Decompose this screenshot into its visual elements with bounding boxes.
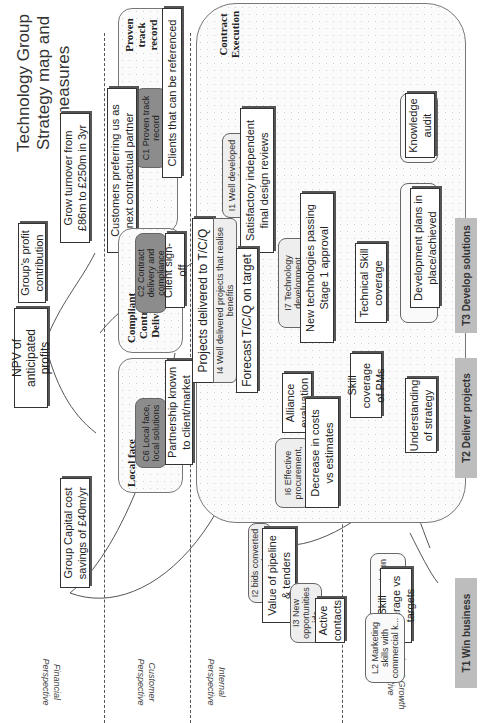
group-label-proven: Proven track record <box>123 13 159 57</box>
measure-development-plans: Development plans in place/achieved <box>410 188 440 308</box>
measure-new-technologies: New technologies passing Stage 1 approva… <box>300 193 334 343</box>
theme-t2: T2 Deliver projects <box>455 358 477 478</box>
measure-knowledge-audit: Knowledge audit <box>405 93 435 158</box>
measure-skill-coverage-pms: Skill coverage of PMs <box>350 353 382 418</box>
measure-forecast-tcq: Forecast T/C/Q on target <box>236 248 258 393</box>
theme-t3: T3 Develop solutions <box>455 218 477 333</box>
measure-npv: NPV of anticipated profits <box>14 308 48 408</box>
objective-l2[interactable]: L2 Marketing skills with commercial k... <box>365 613 405 683</box>
objective-c6[interactable]: C6 Local face, local solutions <box>135 398 167 468</box>
group-label-contract-execution: Contract Execution <box>217 7 241 62</box>
measure-grow-turnover: Grow turnover from £86m to £250m in 3yr <box>60 113 90 243</box>
objective-i4[interactable]: I4 Well delivered projects that realise … <box>213 218 237 383</box>
measure-active-contacts: Active contacts <box>315 598 345 643</box>
measure-projects-delivered: Projects delivered to T/C/Q <box>192 218 214 383</box>
measure-capital-cost-savings: Group Capital cost savings of £40m/yr <box>60 478 90 588</box>
measure-decrease-costs: Decrease in costs vs estimates <box>305 398 339 508</box>
measure-technical-skill: Technical Skill coverage <box>355 243 387 323</box>
measure-client-signoff: Client sign-off <box>165 233 185 308</box>
theme-t1: T1 Win business <box>455 578 477 688</box>
measure-design-reviews: Satisfactory independent final design re… <box>240 108 274 253</box>
measure-clients-referenced: Clients that can be referenced <box>162 8 182 178</box>
measure-understanding-strategy: Understanding of strategy <box>405 378 437 453</box>
measure-profit-contribution: Group's profit contribution <box>18 223 46 303</box>
measure-partnership-known: Partnership known to client/market <box>165 360 193 465</box>
strategy-map: Technology Group Strategy map and measur… <box>0 0 484 723</box>
